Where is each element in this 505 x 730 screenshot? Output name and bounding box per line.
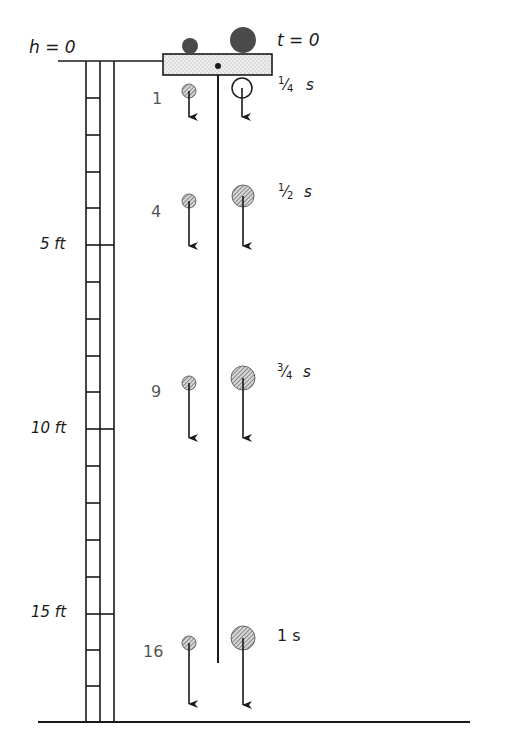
time-three-quarter-numerator: 3 (277, 362, 283, 373)
time-quarter-unit: s (306, 76, 314, 94)
time-label-quarter: 1⁄4 s (278, 76, 314, 94)
height-ladder (86, 61, 114, 722)
large-ball-t0 (230, 27, 256, 53)
scale-label-15ft: 15 ft (31, 605, 66, 620)
time-origin-label: t = 0 (277, 32, 320, 49)
pivot-dot (215, 63, 221, 69)
scale-label-5ft: 5 ft (40, 237, 65, 252)
time-origin-text: t = 0 (277, 30, 320, 50)
distance-count-quarter: 1 (152, 91, 162, 107)
time-quarter-numerator: 1 (278, 75, 284, 86)
time-three-quarter-denominator: 4 (286, 370, 292, 381)
height-origin-text: h = 0 (29, 37, 76, 57)
time-half-numerator: 1 (278, 182, 284, 193)
time-label-half: 1⁄2 s (278, 183, 312, 201)
scale-label-10ft: 10 ft (31, 421, 66, 436)
time-three-quarter-unit: s (303, 363, 311, 381)
time-label-one-second: 1 s (277, 628, 301, 644)
height-origin-label: h = 0 (29, 39, 76, 56)
time-label-three-quarter: 3⁄4 s (277, 363, 311, 381)
free-fall-diagram (0, 0, 505, 730)
time-quarter-denominator: 4 (287, 83, 293, 94)
distance-count-three-quarter: 9 (151, 384, 161, 400)
small-ball-t0 (182, 38, 198, 54)
time-half-denominator: 2 (287, 190, 293, 201)
distance-count-one-second: 16 (143, 644, 163, 660)
time-half-unit: s (304, 183, 312, 201)
distance-count-half: 4 (151, 204, 161, 220)
